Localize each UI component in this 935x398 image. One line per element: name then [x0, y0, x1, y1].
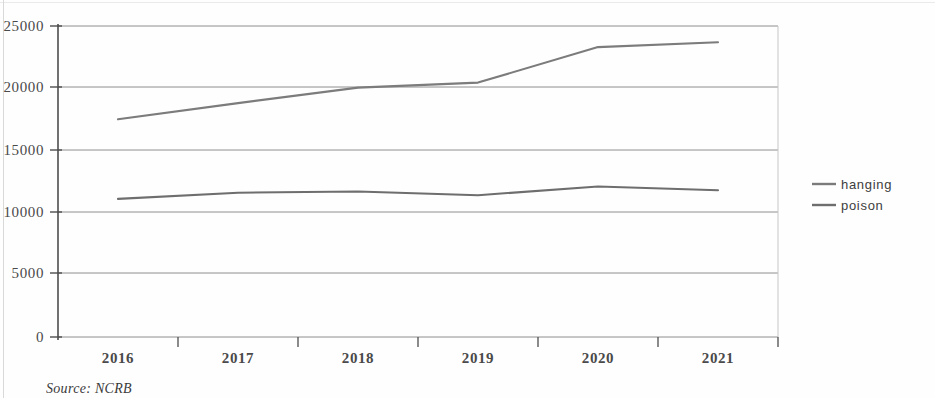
series-line-poison [118, 187, 718, 199]
y-tick-label: 15000 [4, 142, 45, 158]
chart-svg: 0 5000 10000 15000 20000 25000 2016 2017… [0, 0, 935, 398]
y-tick-label: 5000 [12, 265, 44, 281]
x-tick-label: 2016 [102, 350, 134, 366]
x-tick-labels: 2016 2017 2018 2019 2020 2021 [102, 350, 734, 366]
x-tick-label: 2018 [342, 350, 374, 366]
series-line-hanging [118, 42, 718, 119]
y-tick-label: 20000 [4, 79, 45, 95]
y-tick-labels: 0 5000 10000 15000 20000 25000 [4, 18, 45, 345]
x-axis-ticks [178, 337, 778, 347]
y-tick-label: 0 [36, 329, 44, 345]
y-tick-label: 25000 [4, 18, 45, 34]
legend-label-poison: poison [841, 198, 884, 213]
x-tick-label: 2020 [582, 350, 614, 366]
series-lines [118, 42, 718, 199]
y-tick-label: 10000 [4, 204, 45, 220]
chart-legend: hanging poison [812, 177, 892, 213]
gridlines [58, 26, 778, 337]
x-tick-label: 2019 [462, 350, 494, 366]
source-caption: Source: NCRB [46, 381, 132, 398]
x-tick-label: 2021 [702, 350, 734, 366]
legend-label-hanging: hanging [841, 177, 892, 192]
x-tick-label: 2017 [222, 350, 254, 366]
y-axis [50, 24, 62, 340]
line-chart: 0 5000 10000 15000 20000 25000 2016 2017… [0, 0, 935, 398]
